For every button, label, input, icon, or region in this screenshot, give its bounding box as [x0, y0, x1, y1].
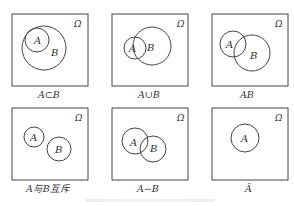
omega-label: Ω: [73, 19, 82, 29]
panel-mutually-exclusive: Ω A B A与B互斥: [12, 108, 88, 194]
caption-mutually-exclusive: A与B互斥: [25, 183, 71, 194]
panel-subset: Ω A B A⊂B: [12, 14, 88, 100]
panel-complement: Ω A Ā: [212, 108, 288, 194]
omega-label: Ω: [176, 19, 185, 29]
label-a: A: [29, 132, 37, 143]
caption-subset: A⊂B: [37, 89, 60, 100]
label-a: A: [129, 137, 137, 148]
omega-label: Ω: [176, 113, 185, 123]
caption-intersection: AB: [239, 89, 254, 100]
label-b: B: [50, 47, 58, 58]
omega-label: Ω: [274, 19, 283, 29]
omega-label: Ω: [274, 113, 283, 123]
venn-diagram-figure: Ω A B A⊂B Ω A B A∪B Ω A B AB Ω A B A与B互斥: [0, 0, 294, 206]
panel-intersection: Ω A B AB: [212, 14, 288, 100]
clipped-figure-caption: [85, 199, 215, 202]
panel-union: Ω A B A∪B: [112, 14, 188, 100]
panel-difference: Ω A B A−B: [112, 108, 188, 194]
label-a: A: [225, 39, 233, 50]
label-a: A: [240, 133, 248, 144]
label-b: B: [146, 42, 154, 53]
caption-union: A∪B: [137, 89, 160, 100]
label-a: A: [33, 35, 41, 46]
omega-label: Ω: [74, 113, 83, 123]
caption-complement: Ā: [244, 183, 252, 194]
label-b: B: [149, 143, 157, 154]
caption-difference: A−B: [136, 183, 159, 194]
label-b: B: [249, 50, 257, 61]
label-b: B: [54, 144, 62, 155]
label-a: A: [128, 43, 136, 54]
